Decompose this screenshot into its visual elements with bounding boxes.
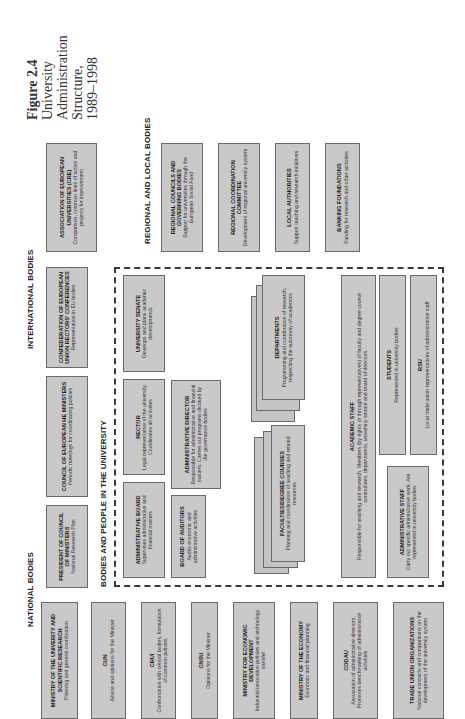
- box-desc: Support for universities through the Eur…: [182, 147, 194, 248]
- box-cun: CUN Advice and opinions for the Minister: [91, 602, 126, 719]
- box-title: ASSOCIATION OF EUROPEAN UNIVERSITIES (CR…: [59, 147, 71, 248]
- caption-line: Administration: [55, 0, 70, 120]
- box-title: MINISTRY OF THE UNIVERITY AND SCIENTIFIC…: [50, 606, 62, 715]
- box-ministry-university: MINISTRY OF THE UNIVERITY AND SCIENTIFIC…: [41, 602, 78, 719]
- box-academic-staff: ACADEMIC STAFF Responsible for teaching …: [341, 275, 376, 578]
- box-desc: Support teaching and research initiative…: [293, 151, 299, 245]
- box-desc: Supervises administrative and financial …: [141, 486, 153, 574]
- org-chart-diagram: Figure 2.4 University Administration Str…: [0, 0, 465, 719]
- box-desc: Industrial innovation policies and techn…: [254, 606, 266, 715]
- box-desc: Comparison, common lines of action and p…: [72, 147, 84, 248]
- box-crui: CRUI Confrontation with central bodies, …: [141, 602, 176, 719]
- box-desc: Funding for research and other activitie…: [343, 151, 349, 244]
- box-desc: Responsible for administrative and finan…: [190, 384, 208, 485]
- box-desc: Economic and financial planning: [304, 623, 310, 697]
- box-banking-foundations: BANKING FOUNDATIONS Funding for research…: [325, 143, 360, 252]
- box-administrative-director: ADMINISTRATIVE DIRECTOR Responsible for …: [171, 380, 221, 489]
- box-rsu: RSU Local trade union representatives of…: [410, 275, 437, 455]
- box-administrative-board: ADMINISTRATIVE BOARD Supervises administ…: [123, 482, 165, 578]
- box-desc: Development of regional university syste…: [242, 149, 248, 246]
- box-title: CONFEDERATION OF EUROPEAN UNION RECTORS'…: [58, 271, 70, 364]
- box-students: STUDENTS Represented in university bodie…: [379, 275, 406, 455]
- box-administrative-staff: ADMINISTRATIVE STAFF Carry out specific …: [387, 466, 429, 578]
- box-desc: Legal representative of the university. …: [141, 383, 153, 471]
- box-desc: Carry out specific administrative work. …: [405, 470, 417, 574]
- caption-line: University: [40, 0, 55, 120]
- box-cnsu: CNSU Opinions for the Minister: [191, 602, 218, 719]
- figure-number: Figure 2.4: [25, 0, 40, 120]
- box-desc: Confrontation with central bodies, formu…: [156, 606, 168, 715]
- box-desc: Representation in EU bodies: [70, 284, 76, 350]
- box-desc: Programming and coordination of research…: [281, 279, 293, 396]
- box-desc: Represented in university bodies: [393, 327, 399, 402]
- box-faculties: FACULTIES/DEGREE COURSES Planning and co…: [271, 425, 305, 562]
- box-codau: CODAU Association of administrative dire…: [333, 602, 378, 719]
- international-bodies-label: INTERNATIONAL BODIES: [26, 250, 35, 349]
- caption-line: Structure,: [70, 0, 85, 120]
- box-desc: Audits economic and administrative activ…: [186, 499, 198, 574]
- box-desc: Advice and opinions for the Minister: [109, 619, 115, 701]
- box-local-authorities: LOCAL AUTHORITIES Support teaching and r…: [275, 143, 310, 252]
- box-rector: RECTOR Legal representative of the unive…: [123, 379, 165, 475]
- box-desc: National contracts and comparisons on th…: [416, 606, 428, 715]
- box-ministry-economy: MINISTRY OF THE ECONOMY Economic and fin…: [290, 602, 318, 719]
- box-president-council: PRESIDENT OF COUNCIL OF MINISTERS Nation…: [46, 505, 88, 588]
- box-desc: Association of administrative directors.…: [350, 606, 368, 715]
- box-title: MINISTRY FOR ECONOMIC DEVELOPMENT: [242, 606, 254, 715]
- caption-line: 1989–1998: [85, 0, 100, 120]
- box-desc: Local trade union representatives of adm…: [424, 301, 430, 428]
- box-departments: DEPARTMENTS Programming and coordination…: [262, 275, 305, 400]
- box-ministry-economic-development: MINISTRY FOR ECONOMIC DEVELOPMENT Indust…: [233, 602, 275, 719]
- regional-bodies-label: REGIONAL AND LOCAL BODIES: [143, 118, 152, 244]
- box-university-senate: UNIVERSITY SENATE Develops and plans aca…: [123, 275, 165, 372]
- box-desc: Planning and coordination of teaching an…: [285, 429, 297, 558]
- box-desc: Periodic meetings for coordinating polic…: [67, 388, 73, 485]
- box-trade-unions: TRADE UNION ORGANIZATIONS National contr…: [393, 602, 444, 719]
- box-title: PRESIDENT OF COUNCIL OF MINISTERS: [58, 509, 70, 584]
- box-regional-coordination: REGIONAL COORDINATION COMMITTEE Developm…: [218, 143, 260, 252]
- box-board-of-auditors: BOARD OF AUDITORS Audits economic and ad…: [171, 495, 206, 578]
- box-title: REGIONAL COORDINATION COMMITTEE: [230, 147, 242, 248]
- figure-caption: Figure 2.4 University Administration Str…: [25, 0, 100, 120]
- box-desc: Planning and general coordination: [63, 621, 69, 700]
- box-regional-councils: REGIONAL COUNCILS AND GOVERNING BODIES S…: [161, 143, 203, 252]
- box-desc: Develops and plans academic developments: [141, 279, 153, 368]
- box-cre: ASSOCIATION OF EUROPEAN UNIVERSITIES (CR…: [46, 143, 97, 252]
- box-desc: Opinions for the Minister: [205, 632, 211, 688]
- national-bodies-label: NATIONAL BODIES: [26, 552, 35, 627]
- box-council-he-ministers: COUNCIL OF EUROPEAN HE MINISTERS Periodi…: [46, 376, 88, 497]
- box-desc: Responsible for teaching and research. M…: [356, 279, 368, 574]
- box-title: REGIONAL COUNCILS AND GOVERNING BODIES: [170, 147, 182, 248]
- box-confederation-rectors: CONFEDERATION OF EUROPEAN UNION RECTORS'…: [46, 267, 88, 368]
- university-bodies-label: BODIES AND PEOPLE IN THE UNIVERSITY: [99, 420, 108, 587]
- box-desc: National Research Plan: [70, 519, 76, 574]
